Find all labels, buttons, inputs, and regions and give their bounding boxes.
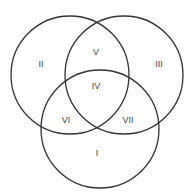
region-label-ii: II	[38, 59, 43, 69]
region-label-vi: VI	[62, 115, 71, 125]
region-label-i: I	[96, 148, 99, 158]
region-label-v: V	[93, 47, 99, 57]
region-label-iii: III	[155, 59, 163, 69]
venn-diagram: I II III IV V VI VII	[0, 0, 191, 194]
region-label-vii: VII	[122, 115, 133, 125]
region-label-iv: IV	[92, 81, 101, 91]
